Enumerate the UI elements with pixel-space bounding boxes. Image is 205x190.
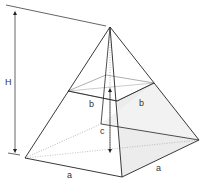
label-section-side-left: b [89, 99, 94, 109]
pyramid-diagram: H a a b b c [0, 0, 205, 190]
label-base-side-left: a [67, 170, 72, 180]
height-reference-line-bottom [8, 153, 20, 155]
label-section-side-right: b [139, 98, 144, 108]
label-base-side-right: a [156, 163, 161, 173]
shaded-face-base-back [101, 83, 199, 140]
base-edge-front-left [25, 158, 122, 177]
label-height: H [5, 77, 12, 87]
height-reference-line-top [6, 5, 106, 26]
label-frustum-height: c [100, 126, 105, 136]
edge-apex-left [25, 27, 110, 158]
